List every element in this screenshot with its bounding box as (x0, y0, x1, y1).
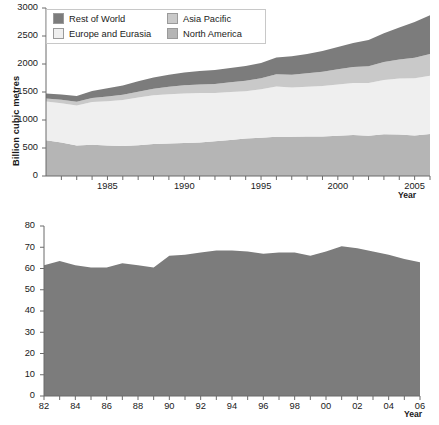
legend-item-label: Asia Pacific (183, 14, 231, 24)
legend-item[interactable]: Asia Pacific (167, 13, 231, 24)
legend-swatch-icon (53, 28, 64, 39)
figure-container: Billion cubic metres 0500100015002000250… (0, 0, 439, 425)
bottom-chart-x-tick-label: 98 (280, 402, 310, 411)
bottom-chart-x-tick-label: 04 (374, 402, 404, 411)
top-chart-x-axis-label: Year (398, 190, 416, 200)
bottom-chart-x-tick-label: 88 (123, 402, 153, 411)
legend-item-label: North America (183, 29, 242, 39)
top-chart-x-tick-label: 2005 (395, 182, 435, 191)
top-chart-x-tick-label: 2000 (318, 182, 358, 191)
top-chart-x-tick-label: 1985 (87, 182, 127, 191)
top-chart-x-tick-label: 1990 (164, 182, 204, 191)
bottom-chart-x-tick-label: 82 (29, 402, 59, 411)
legend-item-label: Rest of World (69, 14, 125, 24)
legend-swatch-icon (167, 28, 178, 39)
chart-panel-gas-production: Billion cubic metres 0500100015002000250… (0, 0, 439, 205)
bottom-chart-x-tick-label: 06 (405, 402, 435, 411)
legend-item[interactable]: North America (167, 28, 242, 39)
top-chart-x-tick-label: 1995 (241, 182, 281, 191)
bottom-chart-x-tick-label: 02 (342, 402, 372, 411)
bottom-chart-x-tick-label: 94 (217, 402, 247, 411)
legend-swatch-icon (53, 13, 64, 24)
bottom-chart-x-tick-label: 86 (92, 402, 122, 411)
legend-swatch-icon (167, 13, 178, 24)
bottom-chart-area-world (44, 246, 420, 396)
bottom-chart-x-tick-label: 96 (248, 402, 278, 411)
legend-item[interactable]: Europe and Eurasia (53, 28, 151, 39)
bottom-chart-x-tick-label: 84 (60, 402, 90, 411)
bottom-chart-x-tick-label: 92 (186, 402, 216, 411)
bottom-chart-x-tick-label: 90 (154, 402, 184, 411)
chart-panel-rp-rate: Reserves to production (R/P) rate 010203… (0, 208, 439, 425)
legend-item-label: Europe and Eurasia (69, 29, 151, 39)
bottom-chart-plot-area (0, 208, 439, 425)
bottom-chart-x-tick-label: 00 (311, 402, 341, 411)
top-chart-legend: Rest of WorldAsia PacificEurope and Eura… (46, 9, 266, 44)
legend-item[interactable]: Rest of World (53, 13, 125, 24)
